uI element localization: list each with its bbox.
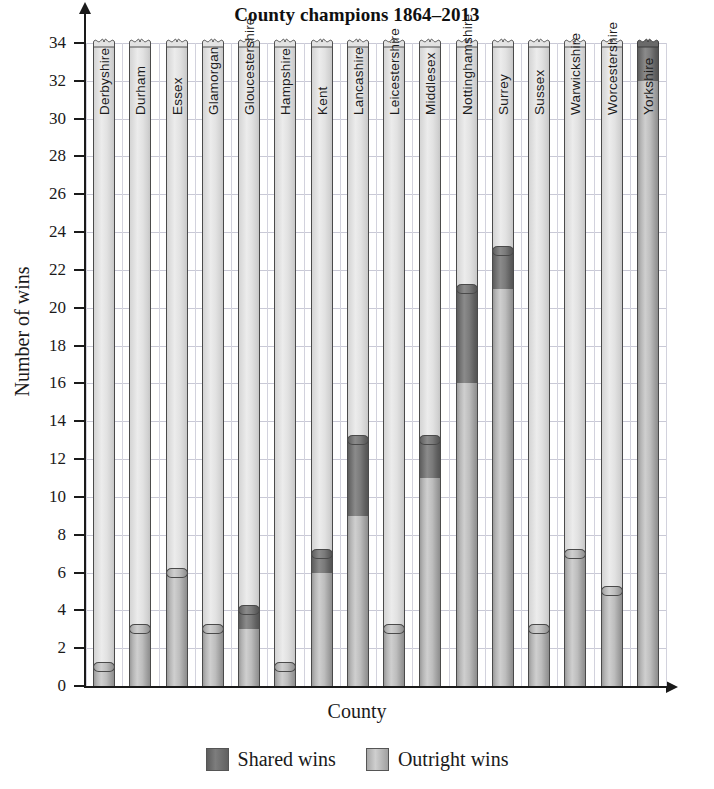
bar-hampshire[interactable]: Hampshire bbox=[274, 43, 296, 686]
y-tick-label: 20 bbox=[49, 299, 66, 316]
bar-cap bbox=[166, 568, 188, 578]
y-tick-mark bbox=[74, 534, 84, 536]
y-tick-mark bbox=[74, 496, 84, 498]
y-tick-mark bbox=[74, 307, 84, 309]
legend-item-shared: Shared wins bbox=[206, 748, 336, 771]
bar-label-nottinghamshire: Nottinghamshire bbox=[459, 14, 474, 115]
bar-nottinghamshire[interactable]: Nottinghamshire bbox=[456, 43, 478, 686]
bar-cap bbox=[601, 586, 623, 596]
bar-cap bbox=[347, 435, 369, 445]
bar-tube-empty bbox=[93, 43, 115, 667]
bar-label-glamorgan: Glamorgan bbox=[205, 46, 220, 115]
gridline-vertical bbox=[449, 43, 450, 686]
bar-worcestershire[interactable]: Worcestershire bbox=[601, 43, 623, 686]
bar-yorkshire[interactable]: Yorkshire bbox=[637, 43, 659, 686]
legend-label-outright: Outright wins bbox=[398, 748, 509, 771]
bar-label-surrey: Surrey bbox=[495, 74, 510, 115]
bar-segment-outright bbox=[166, 573, 188, 686]
gridline-vertical bbox=[630, 43, 631, 686]
y-tick-mark bbox=[74, 193, 84, 195]
bar-derbyshire[interactable]: Derbyshire bbox=[93, 43, 115, 686]
x-axis-title: County bbox=[0, 700, 714, 723]
gridline-vertical bbox=[412, 43, 413, 686]
bar-label-sussex: Sussex bbox=[532, 70, 547, 115]
bar-chart: County champions 1864–2013 Number of win… bbox=[0, 0, 714, 789]
bar-broken-top-icon bbox=[492, 36, 514, 48]
bar-surrey[interactable]: Surrey bbox=[492, 43, 514, 686]
bar-tube-empty bbox=[274, 43, 296, 667]
y-tick-mark bbox=[74, 80, 84, 82]
bar-glamorgan[interactable]: Glamorgan bbox=[202, 43, 224, 686]
bar-segment-outright bbox=[347, 516, 369, 686]
bar-essex[interactable]: Essex bbox=[166, 43, 188, 686]
bar-durham[interactable]: Durham bbox=[129, 43, 151, 686]
bar-broken-top-icon bbox=[166, 36, 188, 48]
legend-swatch-shared-icon bbox=[206, 748, 229, 771]
bar-segment-shared bbox=[492, 251, 514, 289]
bar-segment-outright bbox=[564, 554, 586, 686]
gridline-vertical bbox=[159, 43, 160, 686]
y-tick-mark bbox=[74, 572, 84, 574]
bar-cap bbox=[383, 624, 405, 634]
bar-broken-top-icon bbox=[129, 36, 151, 48]
gridline-vertical bbox=[231, 43, 232, 686]
plot-area: DerbyshireDurhamEssexGlamorganGloucester… bbox=[86, 43, 666, 686]
bar-label-kent: Kent bbox=[314, 86, 329, 115]
bar-lancashire[interactable]: Lancashire bbox=[347, 43, 369, 686]
y-tick-label: 34 bbox=[49, 34, 66, 51]
bar-label-hampshire: Hampshire bbox=[278, 48, 293, 115]
y-tick-mark bbox=[74, 269, 84, 271]
bar-tube-empty bbox=[383, 43, 405, 629]
bar-label-durham: Durham bbox=[133, 66, 148, 115]
gridline-vertical bbox=[195, 43, 196, 686]
y-tick-mark bbox=[74, 345, 84, 347]
bar-segment-outright bbox=[528, 629, 550, 686]
y-tick-label: 14 bbox=[49, 412, 66, 429]
chart-legend: Shared wins Outright wins bbox=[0, 748, 714, 771]
y-tick-label: 4 bbox=[58, 601, 67, 618]
y-tick-mark bbox=[74, 420, 84, 422]
y-tick-mark bbox=[74, 155, 84, 157]
x-axis-arrow-icon bbox=[666, 681, 678, 693]
y-tick-mark bbox=[74, 458, 84, 460]
legend-item-outright: Outright wins bbox=[366, 748, 509, 771]
bar-label-essex: Essex bbox=[169, 77, 184, 115]
y-axis-title: Number of wins bbox=[11, 132, 34, 532]
bar-cap bbox=[93, 662, 115, 672]
bar-cap bbox=[528, 624, 550, 634]
bar-tube-empty bbox=[166, 43, 188, 573]
bar-middlesex[interactable]: Middlesex bbox=[419, 43, 441, 686]
bar-cap bbox=[456, 284, 478, 294]
y-tick-label: 16 bbox=[49, 374, 66, 391]
bar-cap bbox=[202, 624, 224, 634]
bar-gloucestershire[interactable]: Gloucestershire bbox=[238, 43, 260, 686]
bar-segment-shared bbox=[238, 610, 260, 629]
bar-tube-empty bbox=[129, 43, 151, 629]
bar-sussex[interactable]: Sussex bbox=[528, 43, 550, 686]
bar-segment-outright bbox=[492, 289, 514, 686]
y-tick-mark bbox=[74, 118, 84, 120]
bar-cap bbox=[564, 549, 586, 559]
gridline-vertical bbox=[376, 43, 377, 686]
bar-warwickshire[interactable]: Warwickshire bbox=[564, 43, 586, 686]
bar-broken-top-icon bbox=[419, 36, 441, 48]
bar-tube-empty bbox=[601, 43, 623, 591]
legend-label-shared: Shared wins bbox=[238, 748, 336, 771]
y-tick-label: 12 bbox=[49, 450, 66, 467]
bar-segment-outright bbox=[129, 629, 151, 686]
bar-label-gloucestershire: Gloucestershire bbox=[242, 17, 257, 115]
gridline-vertical bbox=[122, 43, 123, 686]
y-tick-label: 18 bbox=[49, 337, 66, 354]
bar-broken-top-icon bbox=[311, 36, 333, 48]
bar-kent[interactable]: Kent bbox=[311, 43, 333, 686]
y-tick-mark bbox=[74, 609, 84, 611]
gridline-vertical bbox=[521, 43, 522, 686]
bar-segment-shared bbox=[347, 440, 369, 516]
x-axis-line bbox=[84, 686, 668, 688]
bar-leicestershire[interactable]: Leicestershire bbox=[383, 43, 405, 686]
gridline-vertical bbox=[485, 43, 486, 686]
y-tick-mark bbox=[74, 231, 84, 233]
bar-segment-outright bbox=[311, 573, 333, 686]
bar-cap bbox=[419, 435, 441, 445]
gridline-vertical bbox=[666, 43, 667, 686]
